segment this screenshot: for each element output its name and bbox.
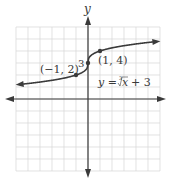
axes <box>5 16 166 178</box>
curve-left-arrow-icon <box>16 81 24 87</box>
data-point <box>98 49 102 53</box>
point-label-neg1-2: (−1, 2) <box>40 63 79 76</box>
equation-lhs: y = <box>97 76 117 89</box>
equation-label: y = 3 x + 3 <box>97 75 151 89</box>
equation-radicand: x <box>122 76 129 89</box>
function-graph: y (−1, 2) 3 (1, 4) y = 3 x + 3 <box>0 0 170 182</box>
y-axis-label: y <box>83 2 91 16</box>
point-label-y-intercept: 3 <box>78 58 84 69</box>
curve-right-arrow-icon <box>152 39 160 45</box>
x-axis-left-arrow-icon <box>5 96 14 102</box>
x-axis-right-arrow-icon <box>157 96 166 102</box>
data-point <box>86 61 90 65</box>
point-label-1-4: (1, 4) <box>98 54 128 67</box>
y-axis-down-arrow-icon <box>85 169 91 178</box>
equation-rest: + 3 <box>131 76 151 89</box>
y-axis-up-arrow-icon <box>85 16 91 25</box>
